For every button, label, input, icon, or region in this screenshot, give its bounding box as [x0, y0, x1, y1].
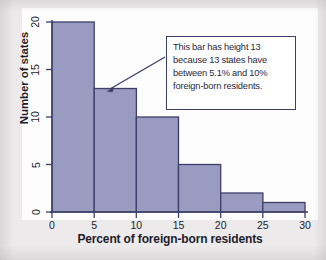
bar-10-15 [136, 117, 178, 212]
x-tick-label-5: 5 [82, 219, 106, 231]
annotation-line-4: foreign-born residents. [173, 80, 290, 93]
y-axis-title: Number of states [18, 18, 30, 138]
annotation-line-2: because 13 states have [173, 54, 290, 67]
bar-20-25 [221, 193, 263, 212]
annotation-line-1: This bar has height 13 [173, 41, 290, 54]
y-tick-label-20: 20 [29, 11, 41, 33]
x-tick-label-0: 0 [40, 219, 64, 231]
bar-5-10 [94, 89, 136, 213]
x-axis-title: Percent of foreign-born residents [30, 232, 310, 246]
annotation-arrow [107, 57, 166, 92]
x-tick-label-10: 10 [124, 219, 148, 231]
bar-0-5 [52, 22, 94, 212]
x-tick-label-15: 15 [167, 219, 191, 231]
x-tick-label-25: 25 [251, 219, 275, 231]
x-tick-label-20: 20 [209, 219, 233, 231]
x-axis-ticks [52, 212, 305, 218]
y-tick-label-10: 10 [29, 106, 41, 128]
bar-25-30 [263, 203, 305, 213]
annotation-callout: This bar has height 13 because 13 states… [166, 36, 296, 110]
annotation-line-3: between 5.1% and 10% [173, 67, 290, 80]
y-tick-label-5: 5 [30, 154, 42, 176]
y-axis-ticks [46, 22, 52, 212]
x-tick-label-30: 30 [293, 219, 317, 231]
bar-15-20 [179, 165, 221, 213]
y-tick-label-15: 15 [29, 59, 41, 81]
annotation-text: This bar has height 13 because 13 states… [173, 41, 290, 93]
histogram-figure: 0 5 10 15 20 0 5 10 15 20 25 30 Number o… [0, 0, 326, 260]
